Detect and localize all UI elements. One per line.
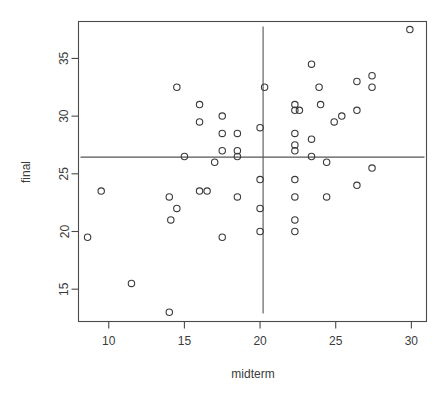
scatter-plot-figure: 1015202530 1520253035 midterm final [0,0,447,399]
y-tick-label: 20 [58,225,72,239]
data-point [257,176,263,182]
data-point [292,194,298,200]
data-point [316,84,322,90]
data-point [323,159,329,165]
data-point [204,188,210,194]
data-point [211,159,217,165]
y-tick-label: 25 [58,167,72,181]
y-axis-title: final [19,161,33,183]
data-point [168,217,174,223]
plot-canvas: 1015202530 1520253035 midterm final [0,0,447,399]
data-point [296,107,302,113]
data-point [219,130,225,136]
data-point [181,153,187,159]
data-point [166,309,172,315]
data-point [308,153,314,159]
data-point [234,130,240,136]
data-point [354,182,360,188]
x-axis-tick-labels: 1015202530 [102,334,418,348]
data-point [261,84,267,90]
data-point [354,107,360,113]
data-point [308,61,314,67]
data-point [339,113,345,119]
data-point [257,228,263,234]
data-point [219,113,225,119]
data-point [292,130,298,136]
data-point [407,26,413,32]
data-point [369,84,375,90]
data-point [219,234,225,240]
data-point [196,119,202,125]
y-axis-ticks [72,58,79,289]
data-point [166,194,172,200]
y-tick-label: 15 [58,282,72,296]
data-point-group [84,26,413,315]
data-point [317,101,323,107]
y-axis-tick-labels: 1520253035 [58,51,72,295]
data-point [98,188,104,194]
data-point [257,124,263,130]
data-point [292,228,298,234]
data-point [369,73,375,79]
data-point [369,165,375,171]
data-point [196,101,202,107]
x-tick-label: 25 [329,334,343,348]
data-point [292,217,298,223]
data-point [234,194,240,200]
y-tick-label: 30 [58,109,72,123]
data-point [308,136,314,142]
data-point [219,148,225,154]
data-point [196,188,202,194]
x-axis-ticks [109,322,412,329]
x-tick-label: 20 [253,334,267,348]
data-point [331,119,337,125]
data-point [174,205,180,211]
y-tick-label: 35 [58,51,72,65]
data-point [174,84,180,90]
plot-frame [79,22,427,322]
x-tick-label: 15 [178,334,192,348]
x-tick-label: 10 [102,334,116,348]
data-point [323,194,329,200]
data-point [128,280,134,286]
x-axis-title: midterm [231,367,274,381]
reference-lines [81,27,425,314]
x-tick-label: 30 [405,334,419,348]
data-point [292,176,298,182]
data-point [84,234,90,240]
data-point [257,205,263,211]
data-point [354,78,360,84]
